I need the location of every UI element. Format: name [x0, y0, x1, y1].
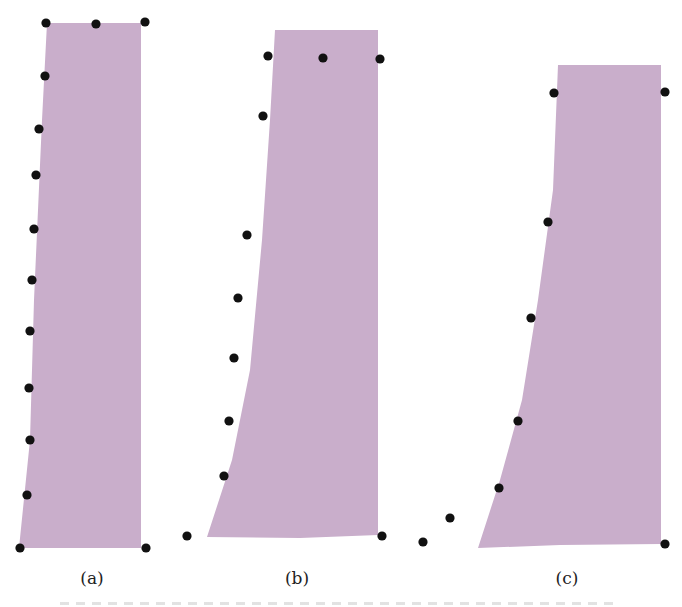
control-point [40, 71, 49, 80]
control-point [29, 224, 38, 233]
control-point [224, 416, 233, 425]
control-point [263, 51, 272, 60]
control-point [543, 217, 552, 226]
deformed-shape [207, 30, 378, 538]
panel-b-label: (b) [285, 568, 309, 588]
control-point [318, 53, 327, 62]
control-point [182, 531, 191, 540]
control-point [377, 531, 386, 540]
control-point [22, 490, 31, 499]
figure-canvas [0, 0, 682, 607]
control-point [27, 275, 36, 284]
control-point [418, 537, 427, 546]
deformed-shape [478, 65, 661, 548]
control-point [233, 293, 242, 302]
control-point [34, 124, 43, 133]
control-point [41, 18, 50, 27]
control-point [15, 543, 24, 552]
control-point [494, 483, 503, 492]
control-point [141, 543, 150, 552]
control-point [242, 230, 251, 239]
control-point [25, 435, 34, 444]
panel-c [418, 65, 669, 549]
control-point [445, 513, 454, 522]
control-point [24, 383, 33, 392]
control-point [91, 19, 100, 28]
caption-illegible-text [60, 602, 620, 605]
control-point [526, 313, 535, 322]
control-point [549, 88, 558, 97]
deformed-shape [19, 23, 141, 548]
figure-caption [60, 596, 620, 607]
panel-b [182, 30, 386, 541]
control-point [219, 471, 228, 480]
control-point [660, 539, 669, 548]
control-point [513, 416, 522, 425]
panel-a [15, 17, 150, 552]
control-point [660, 87, 669, 96]
control-point [258, 111, 267, 120]
panel-c-label: (c) [556, 568, 579, 588]
control-point [375, 54, 384, 63]
control-point [25, 326, 34, 335]
panel-a-label: (a) [80, 568, 103, 588]
control-point [31, 170, 40, 179]
control-point [229, 353, 238, 362]
control-point [140, 17, 149, 26]
